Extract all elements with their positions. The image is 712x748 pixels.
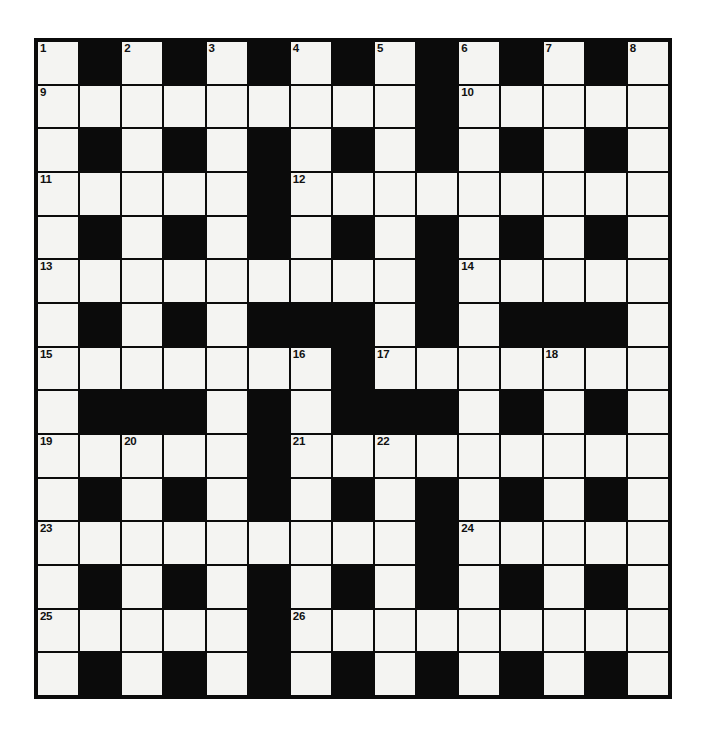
grid-cell-white[interactable] — [627, 259, 669, 303]
grid-cell-white[interactable] — [121, 259, 163, 303]
grid-cell-white[interactable] — [374, 259, 416, 303]
grid-cell-white[interactable] — [627, 521, 669, 565]
grid-cell-white[interactable] — [500, 347, 542, 391]
grid-cell-white[interactable] — [627, 390, 669, 434]
grid-cell-white[interactable] — [121, 609, 163, 653]
grid-cell-white[interactable] — [37, 390, 79, 434]
grid-cell-white[interactable] — [627, 85, 669, 129]
grid-cell-white[interactable] — [79, 347, 121, 391]
grid-cell-white[interactable] — [374, 303, 416, 347]
grid-cell-white[interactable]: 25 — [37, 609, 79, 653]
grid-cell-white[interactable] — [585, 347, 627, 391]
grid-cell-white[interactable]: 19 — [37, 434, 79, 478]
grid-cell-white[interactable] — [585, 172, 627, 216]
grid-cell-white[interactable] — [416, 172, 458, 216]
grid-cell-white[interactable] — [458, 303, 500, 347]
grid-cell-white[interactable] — [290, 390, 332, 434]
grid-cell-white[interactable]: 3 — [206, 41, 248, 85]
grid-cell-white[interactable] — [543, 521, 585, 565]
grid-cell-white[interactable] — [332, 259, 374, 303]
grid-cell-white[interactable] — [37, 478, 79, 522]
grid-cell-white[interactable] — [121, 478, 163, 522]
grid-cell-white[interactable]: 16 — [290, 347, 332, 391]
grid-cell-white[interactable] — [206, 652, 248, 696]
grid-cell-white[interactable] — [248, 259, 290, 303]
grid-cell-white[interactable] — [290, 521, 332, 565]
grid-cell-white[interactable]: 15 — [37, 347, 79, 391]
grid-cell-white[interactable] — [163, 259, 205, 303]
grid-cell-white[interactable] — [627, 128, 669, 172]
grid-cell-white[interactable] — [374, 521, 416, 565]
grid-cell-white[interactable]: 6 — [458, 41, 500, 85]
grid-cell-white[interactable] — [374, 478, 416, 522]
grid-cell-white[interactable] — [458, 128, 500, 172]
grid-cell-white[interactable] — [543, 434, 585, 478]
grid-cell-white[interactable] — [206, 347, 248, 391]
grid-cell-white[interactable] — [500, 85, 542, 129]
grid-cell-white[interactable] — [543, 85, 585, 129]
grid-cell-white[interactable]: 24 — [458, 521, 500, 565]
grid-cell-white[interactable] — [458, 172, 500, 216]
grid-cell-white[interactable] — [627, 609, 669, 653]
grid-cell-white[interactable] — [206, 609, 248, 653]
grid-cell-white[interactable] — [500, 434, 542, 478]
grid-cell-white[interactable] — [79, 85, 121, 129]
grid-cell-white[interactable] — [627, 478, 669, 522]
grid-cell-white[interactable]: 9 — [37, 85, 79, 129]
grid-cell-white[interactable]: 13 — [37, 259, 79, 303]
grid-cell-white[interactable] — [374, 128, 416, 172]
grid-cell-white[interactable] — [585, 85, 627, 129]
grid-cell-white[interactable] — [37, 652, 79, 696]
grid-cell-white[interactable] — [374, 216, 416, 260]
grid-cell-white[interactable] — [374, 172, 416, 216]
grid-cell-white[interactable]: 26 — [290, 609, 332, 653]
grid-cell-white[interactable] — [290, 478, 332, 522]
grid-cell-white[interactable] — [416, 609, 458, 653]
grid-cell-white[interactable] — [416, 434, 458, 478]
grid-cell-white[interactable] — [206, 565, 248, 609]
grid-cell-white[interactable] — [206, 128, 248, 172]
grid-cell-white[interactable] — [290, 565, 332, 609]
grid-cell-white[interactable]: 7 — [543, 41, 585, 85]
grid-cell-white[interactable] — [374, 609, 416, 653]
grid-cell-white[interactable] — [543, 652, 585, 696]
grid-cell-white[interactable] — [585, 434, 627, 478]
grid-cell-white[interactable] — [543, 128, 585, 172]
grid-cell-white[interactable] — [79, 609, 121, 653]
grid-cell-white[interactable] — [290, 128, 332, 172]
grid-cell-white[interactable] — [332, 521, 374, 565]
grid-cell-white[interactable]: 10 — [458, 85, 500, 129]
grid-cell-white[interactable]: 17 — [374, 347, 416, 391]
grid-cell-white[interactable] — [627, 303, 669, 347]
grid-cell-white[interactable] — [163, 85, 205, 129]
grid-cell-white[interactable] — [206, 434, 248, 478]
grid-cell-white[interactable] — [37, 565, 79, 609]
grid-cell-white[interactable] — [543, 390, 585, 434]
grid-cell-white[interactable] — [290, 216, 332, 260]
grid-cell-white[interactable]: 20 — [121, 434, 163, 478]
grid-cell-white[interactable] — [458, 565, 500, 609]
grid-cell-white[interactable] — [79, 259, 121, 303]
grid-cell-white[interactable]: 21 — [290, 434, 332, 478]
grid-cell-white[interactable] — [248, 85, 290, 129]
grid-cell-white[interactable] — [163, 172, 205, 216]
grid-cell-white[interactable] — [121, 128, 163, 172]
grid-cell-white[interactable] — [206, 85, 248, 129]
grid-cell-white[interactable] — [627, 172, 669, 216]
grid-cell-white[interactable] — [206, 303, 248, 347]
grid-cell-white[interactable] — [543, 609, 585, 653]
grid-cell-white[interactable] — [163, 434, 205, 478]
grid-cell-white[interactable] — [163, 521, 205, 565]
grid-cell-white[interactable] — [121, 565, 163, 609]
grid-cell-white[interactable] — [121, 172, 163, 216]
grid-cell-white[interactable] — [121, 347, 163, 391]
grid-cell-white[interactable] — [374, 85, 416, 129]
grid-cell-white[interactable] — [290, 85, 332, 129]
grid-cell-white[interactable] — [543, 172, 585, 216]
grid-cell-white[interactable] — [79, 521, 121, 565]
grid-cell-white[interactable]: 22 — [374, 434, 416, 478]
grid-cell-white[interactable] — [458, 347, 500, 391]
grid-cell-white[interactable] — [543, 478, 585, 522]
grid-cell-white[interactable] — [121, 216, 163, 260]
grid-cell-white[interactable] — [458, 216, 500, 260]
